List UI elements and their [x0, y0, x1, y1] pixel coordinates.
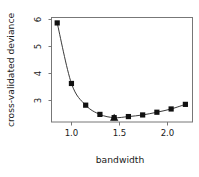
data-point	[69, 81, 74, 86]
x-axis-label: bandwidth	[96, 154, 145, 165]
data-point	[154, 110, 159, 115]
x-tick-label-1-5: 1.5	[113, 128, 127, 138]
data-point	[55, 20, 60, 25]
data-point	[169, 106, 174, 111]
y-tick-label-5: 5	[33, 44, 43, 49]
data-point	[183, 102, 188, 107]
y-axis-label: cross-validated deviance	[5, 13, 16, 128]
data-point	[126, 114, 131, 119]
x-tick-label-2-0: 2.0	[161, 128, 175, 138]
chart-figure: 6 5 4 3 1.0 1.5 2.0 cross-validated devi…	[0, 0, 199, 177]
data-point	[83, 103, 88, 108]
x-tick-label-1-0: 1.0	[65, 128, 79, 138]
y-tick-label-4: 4	[33, 71, 43, 76]
data-point	[140, 112, 145, 117]
plot-background	[0, 0, 199, 177]
data-point	[97, 112, 102, 117]
y-tick-label-6: 6	[33, 17, 43, 22]
cross-validated-deviance-plot: 6 5 4 3 1.0 1.5 2.0 cross-validated devi…	[0, 0, 199, 177]
y-tick-label-3: 3	[33, 98, 43, 103]
